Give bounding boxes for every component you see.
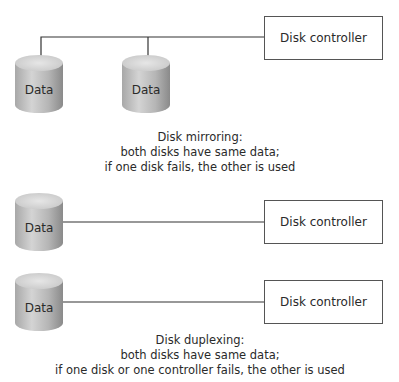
disk-controller-box-duplex-1: Disk controller [264, 200, 383, 244]
caption-title: Disk mirroring: [80, 130, 320, 145]
disk-cylinder-mirror-2: Data [122, 55, 170, 113]
disk-label: Data [15, 221, 63, 235]
disk-label: Data [15, 83, 63, 97]
disk-cylinder-duplex-2: Data [15, 273, 63, 331]
caption-line: if one disk fails, the other is used [80, 160, 320, 175]
controller-label: Disk controller [280, 295, 367, 309]
controller-label: Disk controller [280, 31, 367, 45]
disk-label: Data [122, 83, 170, 97]
mirroring-bus-line [41, 37, 264, 56]
controller-label: Disk controller [280, 215, 367, 229]
caption-line: both disks have same data; [80, 145, 320, 160]
caption-line: both disks have same data; [40, 348, 360, 363]
duplexing-caption: Disk duplexing: both disks have same dat… [40, 333, 360, 378]
caption-line: if one disk or one controller fails, the… [40, 363, 360, 378]
mirroring-caption: Disk mirroring: both disks have same dat… [80, 130, 320, 175]
disk-label: Data [15, 301, 63, 315]
disk-controller-box-duplex-2: Disk controller [264, 280, 383, 324]
caption-title: Disk duplexing: [40, 333, 360, 348]
disk-cylinder-duplex-1: Data [15, 193, 63, 251]
disk-cylinder-mirror-1: Data [15, 55, 63, 113]
disk-controller-box-mirroring: Disk controller [264, 16, 383, 60]
